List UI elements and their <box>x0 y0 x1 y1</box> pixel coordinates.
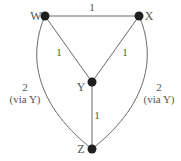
label-w: W <box>30 9 42 23</box>
graph-diagram: 1 1 1 1 2 (via Y) 2 (via Y) W X Y Z <box>0 0 181 161</box>
weight-y-z: 1 <box>94 109 100 121</box>
label-y: Y <box>77 80 86 94</box>
weight-w-x: 1 <box>89 1 95 13</box>
edge-x-z-curved <box>92 16 147 149</box>
node-x <box>135 12 144 21</box>
weight-w-y: 1 <box>56 46 62 58</box>
edge-x-y <box>92 16 139 82</box>
weight-x-z: 2 <box>156 81 162 93</box>
node-z <box>88 145 97 154</box>
weight-x-y: 1 <box>122 46 128 58</box>
graph-svg: 1 1 1 1 2 (via Y) 2 (via Y) W X Y Z <box>0 0 181 161</box>
label-z: Z <box>77 142 84 156</box>
label-x: X <box>145 9 154 23</box>
note-x-z: (via Y) <box>143 93 174 106</box>
node-y <box>88 78 97 87</box>
weight-w-z: 2 <box>22 81 28 93</box>
node-w <box>41 12 50 21</box>
note-w-z: (via Y) <box>9 93 40 106</box>
edge-w-y <box>45 16 92 82</box>
